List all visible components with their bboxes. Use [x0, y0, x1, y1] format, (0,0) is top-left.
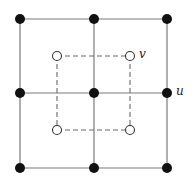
open-node-bottom-left — [53, 126, 62, 135]
node-top-left — [15, 14, 25, 24]
node-u — [162, 88, 172, 98]
grid-diagram: v u — [0, 0, 194, 184]
node-top-center — [89, 14, 99, 24]
node-bottom-center — [89, 163, 99, 173]
node-top-right — [162, 14, 172, 24]
node-v — [126, 52, 135, 61]
open-node-bottom-right — [126, 126, 135, 135]
node-middle-left — [15, 88, 25, 98]
label-u: u — [176, 84, 184, 98]
node-bottom-right — [162, 163, 172, 173]
node-bottom-left — [15, 163, 25, 173]
node-center — [89, 88, 99, 98]
open-node-top-left — [53, 52, 62, 61]
label-v: v — [139, 47, 146, 61]
